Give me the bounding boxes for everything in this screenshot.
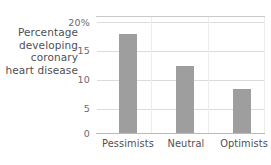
bar-pessimists xyxy=(119,34,137,133)
category-separator-2 xyxy=(208,17,209,133)
category-separator-3 xyxy=(264,17,265,133)
plot-top-rule xyxy=(96,16,265,17)
x-axis-tick-labels: Pessimists Neutral Optimists xyxy=(96,138,271,156)
y-tick-label-10: 10 xyxy=(46,75,90,85)
x-axis-baseline xyxy=(96,133,265,134)
y-axis-tick-labels: 20% 15 10 5 0 xyxy=(46,0,90,165)
y-tick-label-0: 0 xyxy=(46,129,90,139)
bar-optimists xyxy=(233,89,251,134)
y-tick-label-5: 5 xyxy=(46,104,90,114)
y-tick-label-15: 15 xyxy=(46,46,90,56)
bar-chart-figure: Percentage developing coronary heart dis… xyxy=(0,0,271,165)
x-tick-label-optimists: Optimists xyxy=(210,138,271,149)
bar-neutral xyxy=(176,66,194,134)
x-tick-label-pessimists: Pessimists xyxy=(96,138,160,149)
gridline-20 xyxy=(97,22,265,23)
y-tick-label-20: 20% xyxy=(46,18,90,28)
category-separator-1 xyxy=(151,17,152,133)
plot-area xyxy=(96,16,265,133)
x-tick-label-neutral: Neutral xyxy=(154,138,218,149)
